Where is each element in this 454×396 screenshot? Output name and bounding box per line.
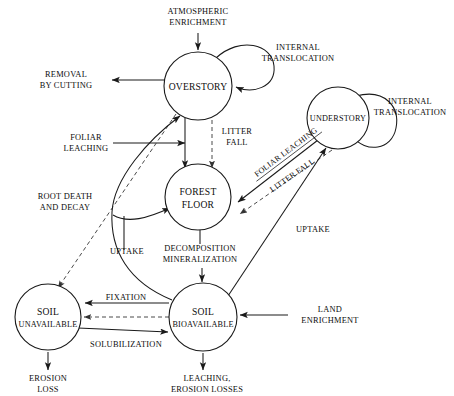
svg-text:LEACHING: LEACHING — [64, 144, 109, 153]
svg-text:FALL: FALL — [226, 138, 247, 147]
label-litter-fall-overstory: LITTER FALL — [222, 127, 253, 147]
label-internal-translocation-overstory: INTERNAL TRANSLOCATION — [262, 43, 335, 63]
svg-text:LEACHING,: LEACHING, — [183, 374, 230, 383]
svg-text:FIXATION: FIXATION — [106, 293, 147, 302]
diagram-canvas: OVERSTORY UNDERSTORY FOREST FLOOR SOIL U… — [0, 0, 454, 396]
node-label-soil-bioavailable-line2: BIOAVAILABLE — [172, 320, 233, 329]
node-label-forest-floor-line2: FLOOR — [182, 199, 215, 210]
label-leaching-erosion-losses: LEACHING, EROSION LOSSES — [171, 374, 243, 394]
label-uptake-right: UPTAKE — [296, 225, 330, 234]
flow-line-solubilization — [78, 328, 168, 332]
svg-text:TRANSLOCATION: TRANSLOCATION — [262, 54, 335, 63]
svg-text:BY CUTTING: BY CUTTING — [40, 81, 93, 90]
svg-text:LOSS: LOSS — [37, 385, 59, 394]
svg-text:REMOVAL: REMOVAL — [45, 70, 87, 79]
flow-line-uptake-right — [228, 148, 326, 296]
node-label-understory: UNDERSTORY — [310, 114, 366, 123]
label-solubilization: SOLUBILIZATION — [90, 340, 162, 349]
svg-text:SOLUBILIZATION: SOLUBILIZATION — [90, 340, 162, 349]
node-soil-unavailable[interactable]: SOIL UNAVAILABLE — [15, 284, 81, 350]
nutrient-cycle-diagram: OVERSTORY UNDERSTORY FOREST FLOOR SOIL U… — [0, 0, 454, 396]
svg-text:INTERNAL: INTERNAL — [276, 43, 320, 52]
label-atmospheric-enrichment: ATMOSPHERIC ENRICHMENT — [168, 7, 229, 27]
node-label-forest-floor-line1: FOREST — [180, 186, 217, 197]
node-label-soil-unavailable-line1: SOIL — [37, 306, 59, 317]
label-erosion-loss: EROSION LOSS — [29, 374, 67, 394]
node-label-soil-bioavailable-line1: SOIL — [192, 306, 214, 317]
svg-text:ENRICHMENT: ENRICHMENT — [301, 316, 358, 325]
node-label-overstory: OVERSTORY — [169, 81, 228, 92]
svg-text:FOLIAR: FOLIAR — [70, 133, 102, 142]
node-label-soil-unavailable-line2: UNAVAILABLE — [19, 320, 78, 329]
svg-text:FOLIAR LEACHING: FOLIAR LEACHING — [253, 126, 319, 179]
svg-text:AND DECAY: AND DECAY — [40, 203, 91, 212]
label-internal-translocation-understory: INTERNAL TRANSLOCATION — [374, 97, 447, 117]
svg-text:LITTER: LITTER — [222, 127, 253, 136]
label-decomposition-mineralization: DECOMPOSITION MINERALIZATION — [163, 244, 238, 264]
svg-text:INTERNAL: INTERNAL — [388, 97, 432, 106]
svg-text:EROSION: EROSION — [29, 374, 67, 383]
svg-text:ATMOSPHERIC: ATMOSPHERIC — [168, 7, 229, 16]
svg-text:LAND: LAND — [318, 305, 342, 314]
label-foliar-leaching-understory: FOLIAR LEACHING — [250, 124, 322, 181]
svg-text:ENRICHMENT: ENRICHMENT — [169, 18, 226, 27]
node-understory[interactable]: UNDERSTORY — [307, 87, 369, 149]
node-soil-bioavailable[interactable]: SOIL BIOAVAILABLE — [169, 283, 237, 351]
label-foliar-leaching-overstory: FOLIAR LEACHING — [64, 133, 109, 153]
label-uptake-left: UPTAKE — [110, 247, 144, 256]
svg-text:EROSION LOSSES: EROSION LOSSES — [171, 385, 243, 394]
label-removal-by-cutting: REMOVAL BY CUTTING — [40, 70, 93, 90]
label-land-enrichment: LAND ENRICHMENT — [301, 305, 358, 325]
svg-text:UPTAKE: UPTAKE — [296, 225, 330, 234]
label-fixation: FIXATION — [106, 293, 147, 302]
node-overstory[interactable]: OVERSTORY — [164, 52, 232, 120]
svg-text:TRANSLOCATION: TRANSLOCATION — [374, 108, 447, 117]
label-root-death-and-decay: ROOT DEATH AND DECAY — [38, 192, 93, 212]
flow-line-uptake-left-to-forest-floor — [113, 208, 170, 219]
svg-text:UPTAKE: UPTAKE — [110, 247, 144, 256]
svg-text:ROOT DEATH: ROOT DEATH — [38, 192, 93, 201]
node-forest-floor[interactable]: FOREST FLOOR — [165, 164, 231, 230]
svg-text:MINERALIZATION: MINERALIZATION — [163, 255, 238, 264]
svg-text:DECOMPOSITION: DECOMPOSITION — [164, 244, 236, 253]
